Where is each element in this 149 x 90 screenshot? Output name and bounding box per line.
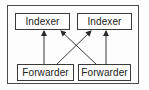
forwarder-left-node: Forwarder [17,64,74,81]
forwarder-right-node: Forwarder [78,64,131,81]
indexer-right-label: Indexer [87,17,121,27]
indexer-left-label: Indexer [25,17,59,27]
diagram-canvas: Indexer Indexer Forwarder Forwarder [0,0,149,90]
indexer-left-node: Indexer [15,13,70,30]
indexer-right-node: Indexer [77,13,132,30]
forwarder-left-label: Forwarder [22,68,68,78]
forwarder-right-label: Forwarder [81,68,127,78]
